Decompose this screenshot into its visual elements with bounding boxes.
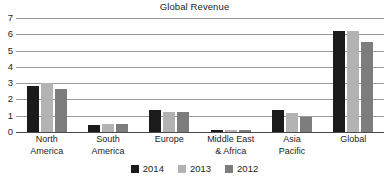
bar-group (323, 18, 384, 132)
y-tick-label-4: 4 (1, 62, 13, 72)
category-label: AsiaPacific (261, 134, 322, 160)
bar (149, 110, 161, 132)
bar (225, 130, 237, 132)
bar (116, 124, 128, 132)
bar (361, 42, 373, 132)
category-label-line1: North (36, 134, 58, 144)
bar (211, 130, 223, 132)
category-label: Middle East& Africa (200, 134, 261, 160)
y-tick-label-2: 2 (1, 94, 13, 104)
legend-item[interactable]: 2013 (178, 164, 211, 174)
y-tick-label-7: 7 (1, 13, 13, 23)
category-label-line1: Europe (155, 134, 184, 144)
bar-group (261, 18, 322, 132)
bar (286, 113, 298, 132)
bar (347, 31, 359, 132)
category-label: NorthAmerica (16, 134, 77, 160)
bar (102, 124, 114, 132)
bar-group (77, 18, 138, 132)
bar (55, 89, 67, 132)
category-label: Europe (139, 134, 200, 160)
chart-title: Global Revenue (0, 1, 389, 13)
bar (163, 112, 175, 132)
legend-label: 2013 (190, 164, 211, 174)
x-axis-category-labels: NorthAmericaSouthAmericaEuropeMiddle Eas… (16, 134, 384, 160)
legend-label: 2012 (237, 164, 258, 174)
chart-legend: 201420132012 (0, 164, 389, 174)
y-tick-label-0: 0 (1, 127, 13, 137)
category-label-line1: Asia (283, 134, 301, 144)
legend-item[interactable]: 2012 (225, 164, 258, 174)
category-label-line1: South (96, 134, 120, 144)
bar (272, 110, 284, 132)
bar (300, 117, 312, 132)
category-label-line1: Global (340, 134, 366, 144)
bar (41, 83, 53, 132)
bar (239, 130, 251, 132)
legend-item[interactable]: 2014 (131, 164, 164, 174)
category-label-line2: & Africa (200, 146, 261, 158)
bar (27, 86, 39, 132)
category-label-line2: America (16, 146, 77, 158)
bar (177, 112, 189, 132)
y-tick-label-3: 3 (1, 78, 13, 88)
legend-label: 2014 (143, 164, 164, 174)
legend-swatch-icon (131, 165, 139, 173)
bar-group (16, 18, 77, 132)
bar-chart: Global Revenue 01234567 NorthAmericaSout… (0, 0, 389, 183)
y-tick-label-1: 1 (1, 111, 13, 121)
legend-swatch-icon (225, 165, 233, 173)
bar-group (139, 18, 200, 132)
bar (88, 125, 100, 132)
bar-group (200, 18, 261, 132)
bar-groups (16, 18, 384, 132)
category-label-line2: America (77, 146, 138, 158)
y-tick-label-6: 6 (1, 29, 13, 39)
category-label-line1: Middle East (207, 134, 254, 144)
category-label: SouthAmerica (77, 134, 138, 160)
category-label-line2: Pacific (261, 146, 322, 158)
plot-area (16, 18, 384, 132)
bar (333, 31, 345, 132)
legend-swatch-icon (178, 165, 186, 173)
axis-baseline (16, 132, 384, 133)
y-tick-label-5: 5 (1, 46, 13, 56)
category-label: Global (323, 134, 384, 160)
